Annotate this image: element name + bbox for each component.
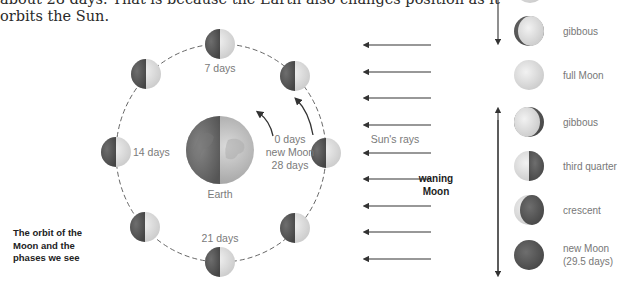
waning-moon-label: waning Moon: [408, 172, 464, 198]
phase-moon-third-quarter: [514, 151, 544, 181]
orbit-direction-arrow-inner: [259, 113, 273, 136]
phase-label-crescent: crescent: [563, 204, 601, 217]
phase-moon-gibbous-waning: [514, 107, 544, 137]
phase-label-full-moon: full Moon: [563, 69, 604, 82]
orbit-moon-upper-left: [131, 59, 161, 89]
label-suns-rays: Sun's rays: [371, 133, 420, 145]
phase-label-new-moon-days: (29.5 days): [563, 255, 613, 268]
orbit-moon-14-days: [101, 137, 131, 167]
orbit-moon-upper-right: [280, 61, 310, 91]
phase-label-gibbous-waning: gibbous: [563, 116, 598, 129]
moon-phase-diagram: 7 days 14 days 21 days 0 days new Moon 2…: [0, 0, 620, 282]
orbit-moon-7-days: [205, 29, 235, 59]
label-28-days: 28 days: [272, 159, 309, 171]
phase-moon-gibbous-waxing: [514, 16, 544, 46]
label-21-days: 21 days: [202, 232, 239, 244]
label-0-days: 0 days: [275, 133, 306, 145]
orbit-moon-0-days: [311, 138, 341, 168]
earth-icon: [186, 116, 254, 184]
phase-label-gibbous-waxing: gibbous: [563, 25, 598, 38]
label-earth: Earth: [207, 188, 232, 200]
waning-line-2: Moon: [408, 185, 464, 198]
phase-moon-crescent: [514, 195, 544, 225]
label-7-days: 7 days: [205, 62, 236, 74]
phase-label-third-quarter: third quarter: [563, 160, 617, 173]
caption-line-2: Moon and the: [13, 240, 82, 253]
sun-rays: [366, 45, 431, 259]
orbit-moon-21-days: [205, 247, 235, 277]
orbit-moon-lower-left: [130, 212, 160, 242]
caption-line-1: The orbit of the: [13, 227, 82, 240]
phase-label-new-moon: new Moon (29.5 days): [563, 242, 613, 268]
phase-moon-partial-top: [515, 0, 545, 3]
caption-line-3: phases we see: [13, 252, 82, 265]
phase-moon-full: [514, 60, 544, 90]
waning-line-1: waning: [408, 172, 464, 185]
label-new-moon: new Moon: [266, 146, 315, 158]
diagram-caption: The orbit of the Moon and the phases we …: [13, 227, 82, 265]
phase-label-new-moon-name: new Moon: [563, 242, 613, 255]
phase-moon-new: [514, 240, 544, 270]
orbit-moon-lower-right: [280, 213, 310, 243]
label-14-days: 14 days: [133, 146, 170, 158]
orbit-direction-arrow-outer: [297, 100, 313, 135]
